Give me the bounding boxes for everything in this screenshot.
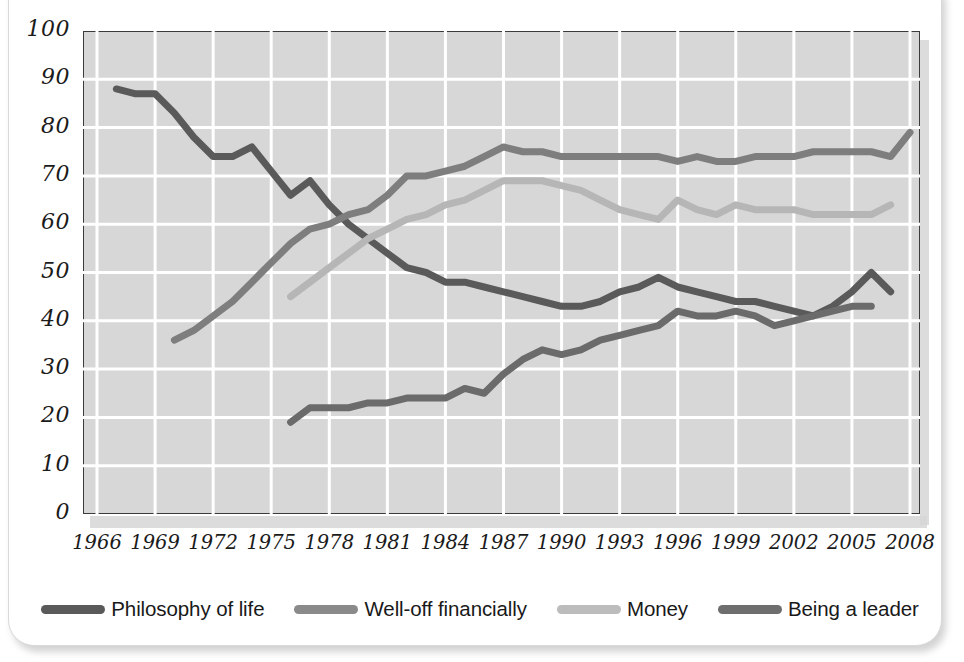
chart-page: 0102030405060708090100 19661969197219751… xyxy=(0,0,964,662)
legend-item-3[interactable]: Being a leader xyxy=(718,597,919,621)
plot-canvas xyxy=(83,31,920,514)
y-axis-tick-label: 30 xyxy=(8,354,70,379)
legend-label: Money xyxy=(627,597,688,621)
y-axis-tick-label: 20 xyxy=(8,402,70,427)
y-axis-tick-label: 90 xyxy=(8,64,70,89)
legend-swatch-icon xyxy=(557,605,621,614)
y-axis-tick-label: 0 xyxy=(8,499,70,524)
y-axis-tick-label: 80 xyxy=(8,113,70,138)
gridlines xyxy=(83,31,920,514)
y-axis-tick-label: 10 xyxy=(8,451,70,476)
legend-item-1[interactable]: Well-off financially xyxy=(294,597,526,621)
series-lines xyxy=(116,89,910,422)
legend-label: Well-off financially xyxy=(364,597,526,621)
y-axis-tick-label: 40 xyxy=(8,306,70,331)
y-axis-tick-label: 100 xyxy=(8,16,70,41)
y-axis-tick-label: 60 xyxy=(8,209,70,234)
legend-swatch-icon xyxy=(41,605,105,614)
legend-label: Being a leader xyxy=(788,597,919,621)
x-axis-tick-label: 2008 xyxy=(873,531,947,554)
legend-swatch-icon xyxy=(294,605,358,614)
y-axis-tick-label: 70 xyxy=(8,161,70,186)
series-line-3 xyxy=(291,306,872,422)
chart-legend: Philosophy of lifeWell-off financiallyMo… xyxy=(60,592,900,626)
line-chart: 0102030405060708090100 19661969197219751… xyxy=(0,0,964,662)
legend-label: Philosophy of life xyxy=(111,597,264,621)
legend-item-2[interactable]: Money xyxy=(557,597,688,621)
plot-shadow-right xyxy=(920,40,929,525)
legend-item-0[interactable]: Philosophy of life xyxy=(41,597,264,621)
legend-swatch-icon xyxy=(718,605,782,614)
y-axis-tick-label: 50 xyxy=(8,258,70,283)
plot-shadow-bottom xyxy=(90,516,927,528)
series-line-1 xyxy=(174,132,910,340)
